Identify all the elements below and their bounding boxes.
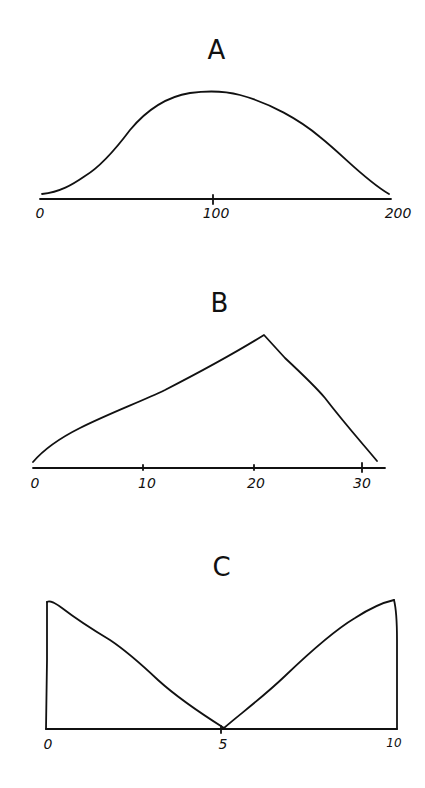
chart-a [40,92,391,204]
chart-c-right-boundary [394,600,397,729]
plots-canvas [0,0,425,788]
figure-page: A B C 0 100 200 0 10 20 30 0 5 10 [0,0,425,788]
chart-b-tick-label-20: 20 [247,475,265,491]
chart-c-title: C [212,552,231,582]
chart-b-tick-label-0: 0 [31,475,40,491]
chart-c-tick-label-5: 5 [219,736,228,752]
chart-c-tick-label-10: 10 [386,736,401,750]
chart-a-title: A [208,35,227,65]
chart-b-tick-label-10: 10 [138,475,156,491]
chart-a-curve [42,92,389,194]
chart-b [33,335,385,472]
chart-a-tick-label-100: 100 [203,205,230,221]
chart-b-tick-label-30: 30 [353,475,371,491]
chart-b-title: B [211,288,230,318]
chart-c-curve [47,600,394,728]
chart-c-left-boundary [46,602,47,729]
chart-c-tick-label-0: 0 [44,736,53,752]
chart-b-curve [33,335,377,462]
chart-a-tick-label-0: 0 [36,205,45,221]
chart-a-tick-label-200: 200 [385,205,412,221]
chart-c [46,600,397,733]
